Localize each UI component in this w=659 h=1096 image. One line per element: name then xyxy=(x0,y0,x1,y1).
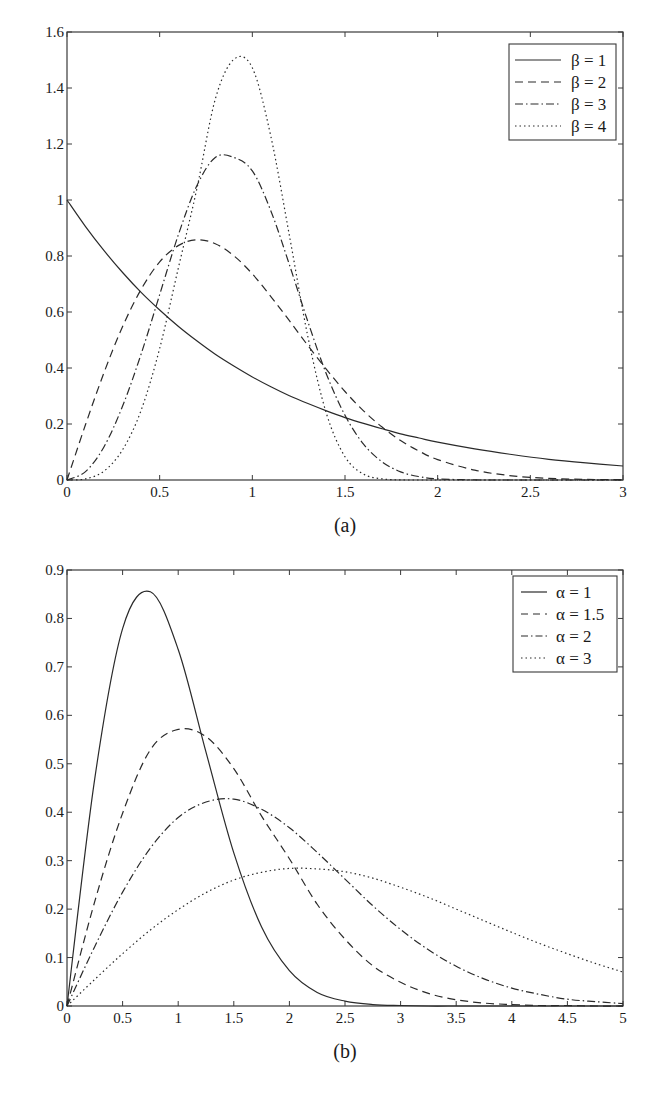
legend-label: α = 1 xyxy=(556,583,592,602)
x-tick-label: 3 xyxy=(397,1010,405,1026)
y-tick-label: 0.1 xyxy=(45,950,64,966)
y-tick-label: 1.6 xyxy=(45,24,64,40)
legend-label: β = 1 xyxy=(571,51,606,70)
series-line xyxy=(67,155,623,480)
x-tick-label: 0 xyxy=(63,1010,71,1026)
x-tick-label: 0 xyxy=(63,484,71,500)
x-tick-label: 2.5 xyxy=(521,484,540,500)
x-tick-label: 1.5 xyxy=(224,1010,243,1026)
y-tick-label: 1 xyxy=(57,192,65,208)
x-tick-label: 1 xyxy=(249,484,257,500)
y-tick-label: 0.4 xyxy=(45,360,64,376)
x-tick-label: 2.5 xyxy=(336,1010,355,1026)
series-line xyxy=(67,868,623,1006)
y-tick-label: 0.2 xyxy=(45,901,64,917)
y-tick-label: 0.3 xyxy=(45,853,64,869)
y-tick-label: 0.6 xyxy=(45,707,64,723)
series-line xyxy=(67,799,623,1006)
y-tick-label: 0.9 xyxy=(45,562,64,578)
panel-a-legend: β = 1 β = 2 β = 3 β = 4 xyxy=(509,44,616,140)
x-tick-label: 0.5 xyxy=(150,484,169,500)
x-tick-label: 3 xyxy=(619,484,627,500)
y-tick-label: 0 xyxy=(57,998,65,1014)
panel-a-caption: (a) xyxy=(334,514,356,537)
series-line xyxy=(67,240,623,480)
x-tick-label: 2 xyxy=(434,484,442,500)
legend-label: β = 3 xyxy=(571,95,606,114)
y-tick-label: 1.2 xyxy=(45,136,64,152)
x-tick-label: 5 xyxy=(619,1010,627,1026)
y-tick-label: 0.7 xyxy=(45,659,64,675)
x-tick-label: 1.5 xyxy=(336,484,355,500)
x-tick-label: 1 xyxy=(174,1010,182,1026)
series-line xyxy=(67,729,623,1006)
legend-label: α = 3 xyxy=(556,649,592,668)
y-tick-label: 0.8 xyxy=(45,610,64,626)
x-tick-label: 4.5 xyxy=(558,1010,577,1026)
y-tick-label: 0.4 xyxy=(45,804,64,820)
series-line xyxy=(67,200,623,466)
figure: 00.511.522.5300.20.40.60.811.21.41.6 β =… xyxy=(0,0,659,1096)
y-tick-label: 0 xyxy=(57,472,65,488)
y-tick-label: 0.6 xyxy=(45,304,64,320)
x-tick-label: 3.5 xyxy=(447,1010,466,1026)
legend-label: α = 1.5 xyxy=(556,605,604,624)
legend-label: β = 4 xyxy=(571,117,607,136)
x-tick-label: 2 xyxy=(286,1010,294,1026)
legend-label: α = 2 xyxy=(556,627,592,646)
legend-label: β = 2 xyxy=(571,73,606,92)
panel-b-legend: α = 1 α = 1.5 α = 2 α = 3 xyxy=(513,576,617,672)
panel-b-chart: 00.511.522.533.544.5500.10.20.30.40.50.6… xyxy=(45,562,627,1063)
x-tick-label: 0.5 xyxy=(113,1010,132,1026)
panel-b-caption: (b) xyxy=(333,1040,356,1063)
y-tick-label: 0.5 xyxy=(45,756,64,772)
x-tick-label: 4 xyxy=(508,1010,516,1026)
y-tick-label: 1.4 xyxy=(45,80,64,96)
panel-a-chart: 00.511.522.5300.20.40.60.811.21.41.6 β =… xyxy=(45,24,627,537)
y-tick-label: 0.8 xyxy=(45,248,64,264)
y-tick-label: 0.2 xyxy=(45,416,64,432)
